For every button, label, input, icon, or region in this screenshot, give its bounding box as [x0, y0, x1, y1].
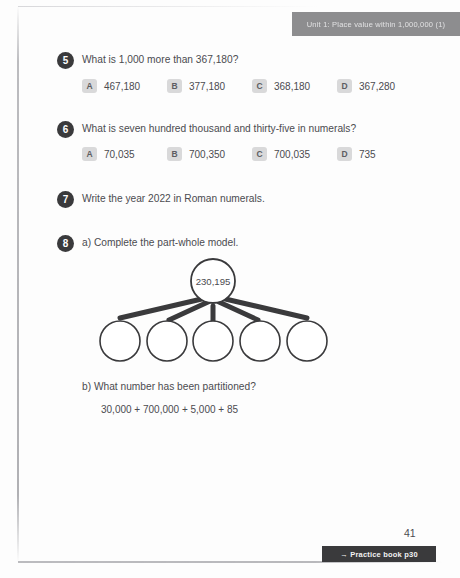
page-edge-top: [18, 6, 318, 7]
question-5-options: A 467,180 B 377,180 C 368,180 D 367,280: [82, 78, 422, 94]
option-letter-badge: D: [337, 147, 352, 161]
question-5-prompt: What is 1,000 more than 367,180?: [82, 54, 238, 65]
question-6-prompt: What is seven hundred thousand and thirt…: [82, 123, 356, 134]
question-6-option-a[interactable]: A 70,035: [82, 146, 135, 162]
question-7-number: 7: [57, 191, 74, 208]
option-letter-badge: B: [167, 147, 182, 161]
option-value: 467,180: [104, 81, 140, 92]
option-value: 367,280: [359, 81, 395, 92]
option-letter-badge: C: [252, 79, 267, 93]
part-circle-1: [100, 321, 140, 361]
option-value: 700,350: [189, 149, 225, 160]
question-6-option-b[interactable]: B 700,350: [167, 146, 225, 162]
unit-banner-label: Unit 1: Place value within 1,000,000 (1): [307, 20, 446, 29]
part-circle-4: [240, 321, 280, 361]
part-circle-3: [193, 321, 233, 361]
option-letter-badge: A: [82, 147, 97, 161]
option-value: 377,180: [189, 81, 225, 92]
question-6-number: 6: [57, 121, 74, 138]
page-number: 41: [404, 527, 416, 539]
question-5-option-b[interactable]: B 377,180: [167, 78, 225, 94]
question-5-option-d[interactable]: D 367,280: [337, 78, 395, 94]
question-7-prompt: Write the year 2022 in Roman numerals.: [82, 193, 265, 204]
option-letter-badge: C: [252, 147, 267, 161]
option-letter-badge: B: [167, 79, 182, 93]
question-5-option-a[interactable]: A 467,180: [82, 78, 140, 94]
question-6-options: A 70,035 B 700,350 C 700,035 D 735: [82, 146, 422, 162]
option-value: 735: [359, 149, 376, 160]
option-value: 368,180: [274, 81, 310, 92]
option-value: 70,035: [104, 149, 135, 160]
question-6-option-c[interactable]: C 700,035: [252, 146, 310, 162]
question-8-number: 8: [57, 235, 74, 252]
worksheet-page: Unit 1: Place value within 1,000,000 (1)…: [0, 0, 460, 578]
part-circle-2: [147, 321, 187, 361]
option-letter-badge: D: [337, 79, 352, 93]
question-6-option-d[interactable]: D 735: [337, 146, 376, 162]
question-8-part-b-expression: 30,000 + 700,000 + 5,000 + 85: [101, 404, 238, 415]
unit-banner: Unit 1: Place value within 1,000,000 (1): [292, 12, 460, 36]
whole-value: 230,195: [196, 276, 231, 287]
practice-book-label: → Practice book p30: [340, 550, 418, 559]
page-edge-left: [17, 6, 19, 562]
part-whole-model[interactable]: 230,195: [80, 254, 370, 366]
option-letter-badge: A: [82, 79, 97, 93]
part-circle-5: [287, 321, 327, 361]
practice-book-chip[interactable]: → Practice book p30: [322, 546, 436, 562]
question-5-option-c[interactable]: C 368,180: [252, 78, 310, 94]
question-8-part-b-label: b) What number has been partitioned?: [82, 381, 256, 392]
question-8-part-a-label: a) Complete the part-whole model.: [82, 237, 238, 248]
question-5-number: 5: [57, 52, 74, 69]
option-value: 700,035: [274, 149, 310, 160]
